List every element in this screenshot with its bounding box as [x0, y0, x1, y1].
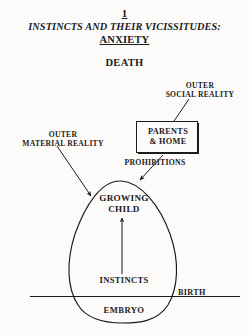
prohibitions-label: PROHIBITIONS — [112, 159, 198, 168]
death-label: DEATH — [0, 57, 249, 69]
embryo-label: EMBRYO — [82, 306, 166, 316]
figure-container: 1 INSTINCTS AND THEIR VICISSITUDES: ANXI… — [0, 0, 249, 335]
figure-number: 1 — [0, 7, 249, 19]
instincts-label: INSTINCTS — [80, 276, 168, 286]
anxiety-label: ANXIETY — [0, 34, 249, 46]
outer-social-reality-label: OUTER SOCIAL REALITY — [152, 82, 248, 99]
growing-child-label: GROWING CHILD — [82, 193, 166, 215]
parents-home-label: PARENTS & HOME — [137, 127, 199, 148]
outer-material-reality-arrow — [57, 146, 91, 196]
figure-title: INSTINCTS AND THEIR VICISSITUDES: — [0, 21, 249, 33]
birth-label: BIRTH — [178, 288, 232, 297]
outer-material-reality-label: OUTER MATERIAL REALITY — [5, 131, 121, 148]
parents-home-box: PARENTS & HOME — [136, 121, 198, 153]
